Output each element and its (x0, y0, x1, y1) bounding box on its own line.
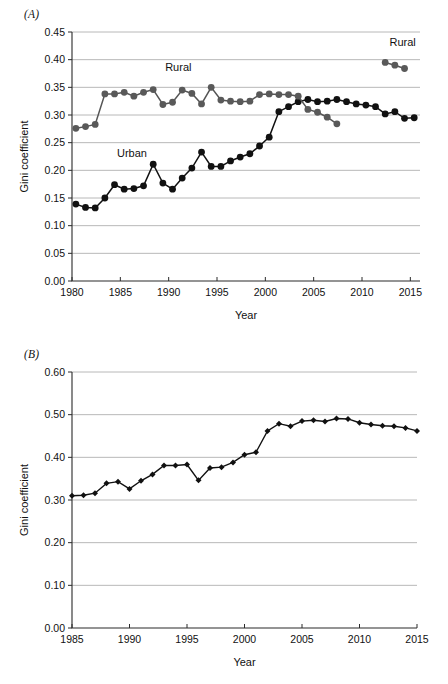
data-point (334, 416, 340, 422)
data-point (72, 201, 79, 208)
x-axis-title: Year (233, 656, 256, 668)
data-point (208, 163, 215, 170)
data-point (288, 423, 294, 429)
data-point (304, 96, 311, 103)
ytick-label-5: 0.25 (45, 136, 66, 148)
xtick-label-5: 2010 (348, 633, 372, 645)
data-point (368, 421, 374, 427)
data-point (69, 493, 75, 499)
data-point (188, 165, 195, 172)
ytick-label-3: 0.30 (45, 494, 66, 506)
ytick-label-2: 0.20 (45, 536, 66, 548)
data-point (217, 163, 224, 170)
data-point (414, 428, 420, 434)
data-point (237, 154, 244, 161)
data-point (101, 91, 108, 98)
data-point (380, 423, 386, 429)
ytick-label-5: 0.50 (45, 408, 66, 420)
ytick-label-6: 0.30 (45, 109, 66, 121)
panel-a-chart: 0.000.050.100.150.200.250.300.350.400.45… (0, 0, 448, 340)
y-axis-title: Gini coefficient (18, 464, 30, 536)
xtick-label-1: 1990 (118, 633, 142, 645)
xtick-label-2: 1990 (157, 286, 181, 298)
data-point (324, 98, 331, 105)
data-point (72, 125, 79, 132)
data-point (121, 89, 128, 96)
data-point (311, 417, 317, 423)
y-axis-title: Gini coefficient (18, 121, 30, 193)
ytick-label-1: 0.10 (45, 579, 66, 591)
panel-a: (A) 0.000.050.100.150.200.250.300.350.40… (0, 0, 448, 340)
series-annotation-1: Urban (117, 147, 147, 159)
xtick-label-1: 1985 (109, 286, 133, 298)
ytick-label-0: 0.00 (45, 622, 66, 634)
data-point (256, 143, 263, 150)
data-point (227, 158, 234, 165)
data-point (92, 205, 99, 212)
ytick-label-1: 0.05 (45, 247, 66, 259)
data-point (111, 181, 118, 188)
data-point (266, 91, 273, 98)
panel-b: (B) 0.000.100.200.300.400.500.6019851990… (0, 340, 448, 684)
data-point (82, 204, 89, 211)
data-point (304, 106, 311, 113)
xtick-label-2: 1995 (175, 633, 199, 645)
data-point (372, 103, 379, 110)
data-point (299, 418, 305, 424)
ytick-label-0: 0.00 (45, 275, 66, 287)
xtick-label-0: 1985 (60, 633, 84, 645)
ytick-label-4: 0.20 (45, 164, 66, 176)
series-rural (72, 84, 340, 132)
data-point (295, 93, 302, 100)
series-annotation-2: Rural (389, 36, 415, 48)
data-point (362, 102, 369, 109)
data-point (401, 65, 408, 72)
ytick-label-9: 0.45 (45, 26, 66, 38)
ytick-label-6: 0.60 (45, 366, 66, 378)
xtick-label-6: 2010 (350, 286, 374, 298)
data-point (130, 93, 137, 100)
data-point (81, 492, 87, 498)
data-point (111, 91, 118, 98)
data-point (401, 115, 408, 122)
data-point (266, 134, 273, 141)
data-point (101, 195, 108, 202)
data-point (150, 86, 157, 93)
xtick-label-0: 1980 (60, 286, 84, 298)
data-point (159, 180, 166, 187)
data-point (275, 91, 282, 98)
data-point (353, 101, 360, 108)
data-point (188, 90, 195, 97)
data-point (237, 98, 244, 105)
data-point (198, 101, 205, 108)
data-point (150, 161, 157, 168)
data-point (208, 84, 215, 91)
data-point (285, 91, 292, 98)
gridlines-group (72, 372, 417, 585)
data-point (285, 103, 292, 110)
ytick-label-8: 0.40 (45, 53, 66, 65)
data-point (391, 62, 398, 69)
data-point (219, 464, 225, 470)
data-point (169, 99, 176, 106)
data-point (314, 98, 321, 105)
gridlines-group (72, 32, 420, 253)
data-point (179, 175, 186, 182)
ytick-label-3: 0.15 (45, 192, 66, 204)
xtick-label-4: 2000 (254, 286, 278, 298)
data-point (333, 96, 340, 103)
data-point (246, 150, 253, 157)
data-point (322, 418, 328, 424)
xtick-label-7: 2015 (399, 286, 423, 298)
data-point (275, 108, 282, 115)
data-point (314, 109, 321, 116)
data-point (173, 462, 179, 468)
xtick-label-6: 2015 (405, 633, 429, 645)
data-point (324, 114, 331, 121)
data-point (217, 97, 224, 104)
data-point (198, 149, 205, 156)
data-point (382, 59, 389, 66)
data-point (382, 110, 389, 117)
data-point (140, 89, 147, 96)
data-point (169, 186, 176, 193)
